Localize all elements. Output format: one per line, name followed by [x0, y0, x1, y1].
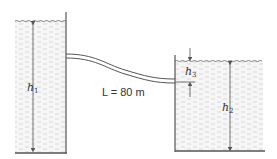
pipe-top-edge — [66, 54, 175, 79]
reservoir-diagram: h1 L = 80 m h3 h2 — [0, 0, 277, 159]
pipe-length-label: L = 80 m — [102, 86, 145, 98]
left-water-body — [15, 21, 66, 153]
right-reservoir: h3 h2 — [175, 48, 265, 152]
left-reservoir: h1 — [15, 12, 67, 153]
pipe-bottom-edge — [66, 58, 175, 83]
pipe: L = 80 m — [66, 54, 175, 98]
